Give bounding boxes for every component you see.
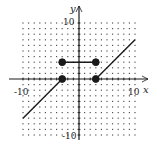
grid-dot [118,129,119,130]
grid-dot [39,73,40,74]
grid-dot [129,34,130,35]
grid-dot [39,22,40,23]
grid-dot [112,39,113,40]
grid-dot [62,28,63,29]
grid-dot [22,28,23,29]
grid-dot [56,73,57,74]
grid-dot [56,106,57,107]
grid-dot [45,22,46,23]
grid-dot [112,73,113,74]
grid-dot [45,39,46,40]
grid-dot [112,123,113,124]
grid-dot [129,50,130,51]
grid-dot [101,62,102,63]
grid-dot [50,50,51,51]
grid-dot [34,45,35,46]
grid-dot [112,95,113,96]
grid-dot [101,123,102,124]
grid-dot [134,62,135,63]
grid-dot [22,123,23,124]
grid-dot [50,67,51,68]
grid-dot [106,134,107,135]
grid-dot [101,39,102,40]
grid-dot [90,106,91,107]
grid-dot [50,22,51,23]
grid-dot [73,129,74,130]
grid-dot [34,28,35,29]
grid-dot [56,28,57,29]
axes [9,6,148,140]
grid-dot [90,95,91,96]
grid-dot [28,56,29,57]
grid-dot [34,67,35,68]
grid-dot [95,22,96,23]
grid-dot [50,34,51,35]
grid-dot [84,112,85,113]
grid-dot [67,73,68,74]
grid-dot [112,118,113,119]
grid-dot [95,39,96,40]
grid-dot [73,90,74,91]
grid-dot [84,50,85,51]
grid-dot [95,123,96,124]
grid-dot [62,118,63,119]
grid-dot [84,28,85,29]
grid-dot [101,95,102,96]
grid-dot [45,129,46,130]
grid-dot [112,84,113,85]
grid-dot [34,34,35,35]
grid-dot [62,84,63,85]
grid-dot [22,22,23,23]
grid-dot [134,45,135,46]
grid-dot [95,95,96,96]
grid-dot [34,84,35,85]
grid-dot [84,45,85,46]
grid-dot [22,101,23,102]
grid-dot [39,95,40,96]
grid-dot [56,112,57,113]
grid-dot [56,22,57,23]
grid-dot [62,45,63,46]
grid-dot [106,129,107,130]
grid-dot [56,123,57,124]
grid-dot [84,39,85,40]
grid-dot [90,123,91,124]
grid-dot [34,90,35,91]
grid-dot [56,129,57,130]
grid-dot [134,134,135,135]
grid-dot [62,67,63,68]
grid-dot [67,118,68,119]
x-max-tick-label: 10 [128,87,140,97]
grid-dot [67,112,68,113]
grid-dot [34,112,35,113]
grid-dot [90,90,91,91]
grid-dot [50,106,51,107]
grid-dot [28,101,29,102]
grid-dot [123,101,124,102]
grid-dot [123,129,124,130]
grid-dot [123,62,124,63]
grid-dot [67,45,68,46]
grid-dot [34,50,35,51]
grid-dot [84,134,85,135]
grid-dot [106,90,107,91]
grid-dot [50,45,51,46]
grid-dot [123,39,124,40]
grid-dot [22,34,23,35]
grid-dot [28,129,29,130]
grid-dot [90,34,91,35]
grid-dot [45,62,46,63]
grid-dot [22,45,23,46]
grid-dot [56,56,57,57]
grid-dot [73,67,74,68]
grid-dot [90,101,91,102]
grid-dot [90,39,91,40]
grid-dot [95,106,96,107]
grid-dot [112,28,113,29]
grid-dot [129,84,130,85]
grid-dot [62,112,63,113]
grid-dot [39,62,40,63]
grid-dot [123,34,124,35]
grid-dot [73,106,74,107]
grid-dot [101,50,102,51]
